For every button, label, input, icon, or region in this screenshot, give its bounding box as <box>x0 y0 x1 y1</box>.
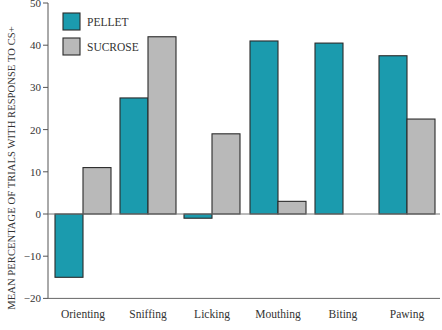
legend-label: PELLET <box>87 16 129 28</box>
bars <box>55 37 435 278</box>
y-tick-label: 40 <box>30 39 42 51</box>
bar-chart: 50403020100−10−20 OrientingSniffingLicki… <box>0 0 442 330</box>
bar-pellet-licking <box>184 214 212 218</box>
x-tick-label: Biting <box>329 308 358 321</box>
bar-pellet-mouthing <box>250 41 278 214</box>
bar-pellet-biting <box>315 43 343 214</box>
x-tick-label: Mouthing <box>255 308 301 321</box>
y-tick-label: 30 <box>30 81 42 93</box>
y-tick-label: −20 <box>24 292 42 304</box>
y-tick-label: −10 <box>24 250 42 262</box>
x-tick-label: Orienting <box>61 308 105 321</box>
bar-sucrose-licking <box>212 134 240 214</box>
y-tick-label: 10 <box>30 166 42 178</box>
bar-sucrose-orienting <box>83 168 111 214</box>
x-tick-label: Licking <box>194 308 230 321</box>
x-axis-labels: OrientingSniffingLickingMouthingBitingPa… <box>61 308 425 321</box>
bar-sucrose-pawing <box>407 119 435 214</box>
x-tick-label: Pawing <box>390 308 425 321</box>
bar-sucrose-sniffing <box>148 37 176 214</box>
x-tick-label: Sniffing <box>129 308 167 321</box>
bar-pellet-sniffing <box>120 98 148 214</box>
y-tick-label: 20 <box>30 124 42 136</box>
legend-swatch-sucrose <box>63 38 80 55</box>
y-tick-label: 50 <box>30 0 42 9</box>
legend: PELLETSUCROSE <box>63 13 139 55</box>
y-tick-label: 0 <box>36 208 42 220</box>
legend-swatch-pellet <box>63 13 80 30</box>
baselines <box>48 214 440 298</box>
bar-sucrose-mouthing <box>278 201 306 214</box>
legend-label: SUCROSE <box>87 41 139 53</box>
bar-pellet-pawing <box>379 56 407 214</box>
bar-pellet-orienting <box>55 214 83 277</box>
y-axis: 50403020100−10−20 <box>24 0 48 304</box>
y-axis-label: MEAN PERCENTAGE OF TRIALS WITH RESPONSE … <box>6 26 17 309</box>
